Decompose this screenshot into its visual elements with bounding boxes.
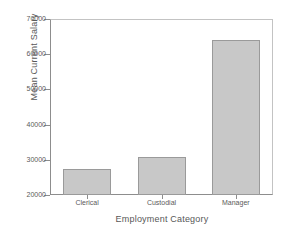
- y-axis-tick-label: 40000: [6, 121, 46, 128]
- x-axis-tick-label: Clerical: [52, 199, 122, 207]
- x-axis-title: Employment Category: [47, 214, 277, 224]
- bar-manager[interactable]: [212, 40, 260, 195]
- bar-chart: Mean Current Salary 20000300004000050000…: [0, 0, 284, 233]
- x-axis-tick-label: Custodial: [127, 199, 197, 207]
- y-axis-tick-label: 30000: [6, 156, 46, 163]
- x-axis-tick-label: Manager: [201, 199, 271, 207]
- y-axis-tick-label: 50000: [6, 85, 46, 92]
- bar-custodial[interactable]: [138, 157, 186, 195]
- y-axis-tick-label: 70000: [6, 15, 46, 22]
- y-axis-tick-label: 20000: [6, 191, 46, 198]
- bar-clerical[interactable]: [63, 169, 111, 195]
- y-axis-tick-label: 60000: [6, 50, 46, 57]
